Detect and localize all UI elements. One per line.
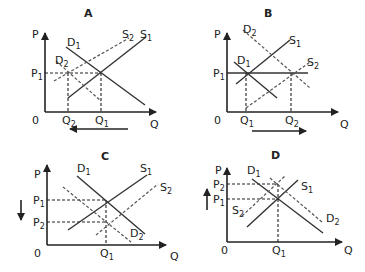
label-d1: D1 [67, 36, 81, 51]
label-q1: Q1 [95, 114, 109, 129]
panel-a-title: A [84, 7, 93, 20]
supply-demand-diagrams: A P Q 0 D1 D2 S2 S1 P1 Q2 Q1 B [0, 0, 365, 272]
label-s1: S1 [301, 180, 313, 195]
svg-text:0: 0 [34, 247, 41, 260]
label-p1: P1 [33, 194, 45, 209]
label-s2: S2 [122, 28, 134, 43]
panel-c: C P Q 0 D1 S1 S2 D2 P1 P2 Q1 [21, 150, 179, 263]
svg-text:0: 0 [214, 114, 221, 127]
label-d2: D2 [243, 23, 257, 38]
svg-text:P: P [214, 28, 221, 41]
label-q1: Q1 [100, 247, 114, 262]
panel-a: A P Q 0 D1 D2 S2 S1 P1 Q2 Q1 [31, 7, 159, 131]
label-s2: S2 [307, 56, 319, 71]
label-q1: Q1 [240, 114, 254, 129]
panel-d: D P Q 0 D1 S1 S2 D2 P2 P1 Q1 [207, 149, 353, 259]
panel-c-title: C [101, 150, 109, 163]
svg-text:0: 0 [221, 244, 228, 257]
label-d2: D2 [130, 227, 144, 242]
label-p2: P2 [33, 216, 45, 231]
label-s2: S2 [232, 204, 244, 219]
label-d2: D2 [55, 54, 69, 69]
svg-text:Q: Q [340, 118, 349, 131]
label-s1: S1 [140, 162, 152, 177]
label-s2: S2 [160, 181, 172, 196]
label-s1: S1 [289, 34, 301, 49]
svg-text:P: P [32, 28, 39, 41]
panel-b-title: B [264, 7, 272, 20]
svg-text:0: 0 [32, 114, 39, 127]
label-p1: P1 [213, 193, 225, 208]
supply-curve-s2 [96, 184, 158, 235]
svg-text:P: P [215, 164, 222, 177]
label-s1: S1 [140, 28, 152, 43]
svg-text:P: P [34, 168, 41, 181]
label-d1: D1 [77, 162, 91, 177]
label-p1: P1 [213, 67, 225, 82]
svg-text:Q: Q [170, 250, 179, 263]
label-q2: Q2 [62, 114, 76, 129]
svg-text:Q: Q [344, 244, 353, 257]
label-d2: D2 [326, 212, 340, 227]
label-d1: D1 [247, 164, 261, 179]
demand-curve-d2 [243, 30, 310, 88]
label-q2: Q2 [285, 114, 299, 129]
demand-curve-d1 [66, 47, 145, 105]
panel-d-title: D [271, 149, 280, 162]
label-p2: P2 [213, 178, 225, 193]
label-q1: Q1 [272, 244, 286, 259]
label-p1: P1 [31, 67, 43, 82]
panel-b: B P Q 0 D2 D1 S1 S2 P1 Q1 Q2 [213, 7, 349, 131]
svg-text:Q: Q [150, 118, 159, 131]
label-d1: D1 [237, 54, 251, 69]
